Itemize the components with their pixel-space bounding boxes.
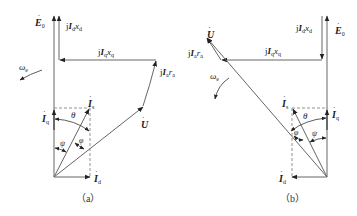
jiara-label-a: jIara [159,67,175,78]
phi-label-b: φ [294,128,299,137]
phasor-diagram: E0 · jIdxd jIqxq jIara ωe U · Is · Iq · … [0,0,357,216]
u-dot-a: · [142,113,145,122]
u-dot-b: · [208,23,211,32]
iq-dot-a: · [43,107,46,116]
theta-label-a: θ [71,110,76,120]
jiqxq-label-b: jIqxq [264,46,281,57]
panel-b: E0 · jIdxd jIqxq jIara ωe U · Is · Iq · … [187,16,345,204]
is-dot-a: · [89,92,92,101]
id-dot-a: · [95,167,98,176]
psi-label-a: ψ [60,139,66,148]
psi-arc-a [55,148,66,152]
omega-label-a: ωe [19,62,28,73]
phi-label-a: φ [79,136,84,145]
theta-arc-a [55,119,89,131]
panel-a: E0 · jIdxd jIqxq jIara ωe U · Is · Iq · … [19,11,175,204]
jidxd-label-a: jIdxd [65,21,82,32]
caption-a: （a） [76,193,100,204]
u-phasor-a [54,107,143,177]
is-dot-b: · [283,92,286,101]
u-phasor-b [207,38,327,177]
jiara-phasor-a [143,61,156,106]
theta-label-b: θ [303,111,308,121]
psi-arc-b [310,138,326,142]
e0-dot-b: · [337,19,340,28]
e0-dot-a: · [38,11,41,20]
psi-label-b: ψ [312,129,318,138]
jidxd-label-b: jIdxd [295,23,312,34]
iq-dot-b: · [333,103,336,112]
jiqxq-label-a: jIqxq [97,47,114,58]
omega-label-b: ωe [210,71,219,82]
id-dot-b: · [280,167,283,176]
jiara-label-b: jIara [187,48,203,59]
jiara-phasor-b [207,38,221,60]
caption-b: （b） [280,193,305,204]
